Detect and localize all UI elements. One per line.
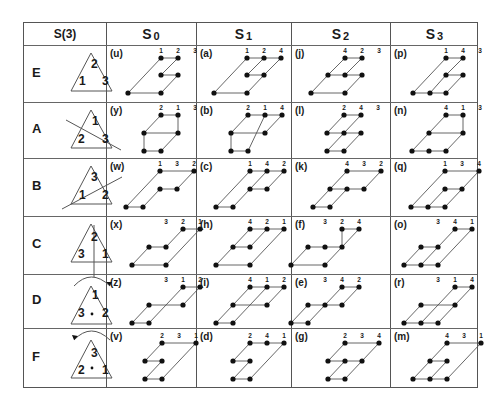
svg-text:3: 3 [164,276,168,283]
lattice-diagram-cell: (q)134 [390,158,479,216]
lattice-diagram-cell: (y)213 [106,102,196,158]
svg-text:3: 3 [164,218,168,225]
svg-text:1: 1 [92,114,99,128]
lattice-diagram-cell: (k)432 [291,158,390,216]
svg-text:4: 4 [340,276,344,283]
header-s3: S3 [390,23,479,45]
svg-text:3: 3 [436,218,440,225]
header-base: S [426,26,435,42]
lattice-diagram-cell: (j)423 [291,45,390,102]
svg-text:3: 3 [436,276,440,283]
corner-header: S(3) [24,23,106,45]
lattice-diagram-cell: (l)243 [291,102,390,158]
svg-text:4: 4 [359,104,363,111]
svg-text:3: 3 [323,276,327,283]
header-base: S [142,26,151,42]
svg-text:1: 1 [282,332,286,339]
svg-text:3: 3 [360,332,364,339]
svg-text:4: 4 [279,47,283,54]
svg-text:3: 3 [377,47,381,54]
lattice-diagram-cell: (f)324 [291,216,390,274]
svg-text:1: 1 [159,47,163,54]
header-base: S [332,26,341,42]
svg-text:3: 3 [362,160,366,167]
lattice-diagram-cell: (e)342 [291,274,390,328]
svg-text:4: 4 [265,332,269,339]
svg-text:3: 3 [460,160,464,167]
svg-text:1: 1 [461,104,465,111]
svg-text:2: 2 [248,332,252,339]
header-sub: 2 [343,30,349,42]
lattice-diagram-cell: (o)341 [390,216,479,274]
lattice-diagram-cell: (m)431 [390,328,479,388]
svg-text:1: 1 [453,276,457,283]
svg-text:2: 2 [78,363,85,377]
svg-text:3: 3 [478,47,482,54]
svg-text:1: 1 [282,218,286,225]
row-label: F [32,349,40,364]
lattice-diagram-cell: (x)321 [106,216,196,274]
lattice-diagram-cell: (r)314 [390,274,479,328]
svg-text:2: 2 [343,332,347,339]
svg-text:1: 1 [265,276,269,283]
row-label: C [32,236,41,251]
header-s1: S1 [196,23,291,45]
svg-text:1: 1 [245,47,249,54]
svg-text:3: 3 [177,332,181,339]
svg-text:3: 3 [462,332,466,339]
row-label: B [32,178,41,193]
svg-text:2: 2 [379,160,383,167]
svg-text:4: 4 [357,218,361,225]
svg-text:2: 2 [176,47,180,54]
svg-text:1: 1 [79,188,86,202]
lattice-diagram-cell: (u)123 [106,45,196,102]
svg-text:1: 1 [79,74,86,88]
svg-text:2: 2 [78,132,85,146]
header-sub: 3 [437,30,443,42]
svg-text:3: 3 [91,170,98,184]
svg-text:4: 4 [477,160,481,167]
svg-text:3: 3 [91,346,98,360]
lattice-diagram-cell: (a)124 [196,45,291,102]
svg-text:2: 2 [360,47,364,54]
svg-text:2: 2 [262,47,266,54]
svg-text:2: 2 [282,276,286,283]
svg-text:3: 3 [323,218,327,225]
svg-text:4: 4 [248,218,252,225]
svg-text:2: 2 [340,218,344,225]
svg-text:4: 4 [445,332,449,339]
svg-text:2: 2 [357,276,361,283]
svg-text:1: 1 [444,47,448,54]
svg-text:4: 4 [444,104,448,111]
svg-text:2: 2 [282,160,286,167]
svg-text:4: 4 [470,276,474,283]
lattice-diagram-cell: (w)132 [106,158,196,216]
svg-text:2: 2 [160,332,164,339]
svg-text:4: 4 [453,218,457,225]
svg-text:2: 2 [91,230,98,244]
lattice-diagram-cell: (b)214 [196,102,291,158]
svg-text:2: 2 [159,104,163,111]
svg-text:4: 4 [265,160,269,167]
svg-text:3: 3 [478,104,482,111]
row-label: E [32,65,41,80]
svg-text:1: 1 [248,160,252,167]
lattice-diagram-cell: (g)234 [291,328,390,388]
svg-text:2: 2 [342,104,346,111]
svg-text:2: 2 [181,218,185,225]
lattice-diagram-cell: (d)241 [196,328,291,388]
svg-text:3: 3 [175,160,179,167]
lattice-diagram-cell: (n)413 [390,102,479,158]
svg-text:4: 4 [248,276,252,283]
svg-text:2: 2 [265,218,269,225]
svg-text:1: 1 [176,104,180,111]
svg-text:2: 2 [91,57,98,71]
svg-text:1: 1 [470,218,474,225]
header-base: S [235,26,244,42]
svg-text:1: 1 [479,332,483,339]
lattice-diagram-cell: (h)421 [196,216,291,274]
header-sub: 1 [246,30,252,42]
svg-text:4: 4 [343,47,347,54]
svg-text:4: 4 [280,104,284,111]
row-label: A [32,121,41,136]
